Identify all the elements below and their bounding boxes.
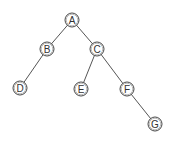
- tree-node-g: G: [148, 117, 162, 131]
- tree-edges: [20, 20, 155, 124]
- node-label: C: [93, 44, 100, 55]
- node-label: D: [16, 83, 23, 94]
- node-label: B: [44, 44, 51, 55]
- binary-tree-diagram: ABCDEFG: [0, 0, 176, 142]
- tree-node-b: B: [40, 42, 54, 56]
- tree-node-e: E: [74, 82, 88, 96]
- tree-node-a: A: [65, 13, 79, 27]
- node-label: A: [69, 15, 76, 26]
- node-label: G: [151, 119, 159, 130]
- node-label: E: [78, 84, 85, 95]
- tree-node-c: C: [90, 42, 104, 56]
- tree-node-f: F: [120, 82, 134, 96]
- node-label: F: [124, 84, 130, 95]
- tree-node-d: D: [13, 81, 27, 95]
